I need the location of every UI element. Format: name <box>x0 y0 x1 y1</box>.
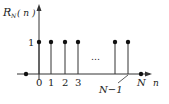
x-axis-arrow-icon <box>145 72 152 77</box>
y-label: R <box>2 6 11 19</box>
n-minus-1-leader <box>118 75 128 83</box>
stem-dots <box>24 40 143 76</box>
stem-plot: R N ( n ) 1 0 1 2 3 … N−1 N n <box>0 0 169 104</box>
n-minus-1-label: N−1 <box>98 84 123 95</box>
y-tick-1: 1 <box>28 37 34 48</box>
x-tick-0: 0 <box>36 77 42 88</box>
stems <box>39 42 128 74</box>
y-label-subscript: N <box>10 12 17 19</box>
x-tick-1: 1 <box>48 77 54 88</box>
y-axis-arrow-icon <box>37 4 42 11</box>
x-tick-3: 3 <box>75 77 81 88</box>
x-label: n <box>153 78 159 88</box>
ellipsis: … <box>91 52 100 62</box>
y-label-arg: ( n ) <box>17 8 36 18</box>
x-tick-2: 2 <box>62 77 68 88</box>
n-label: N <box>136 77 147 88</box>
